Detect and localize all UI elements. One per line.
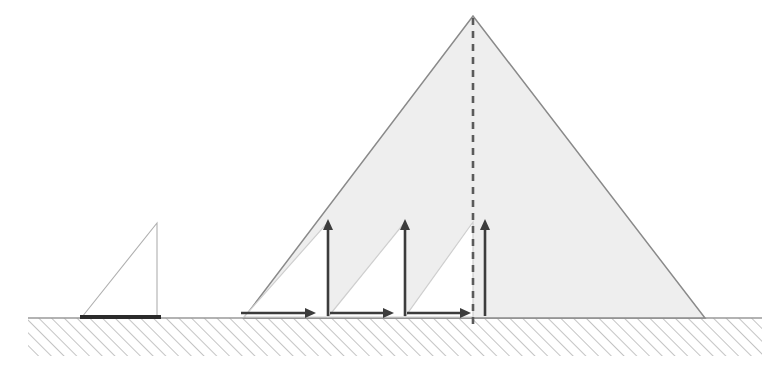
small-triangle	[82, 223, 157, 317]
diagram-svg	[0, 0, 769, 379]
inner-triangle-1	[244, 222, 328, 317]
ground-hatching	[28, 318, 762, 356]
diagram-canvas	[0, 0, 769, 379]
